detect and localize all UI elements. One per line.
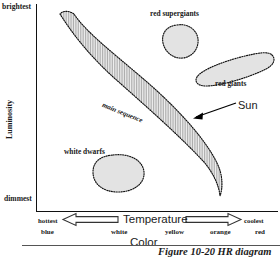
- annotation-label-sun: Sun: [238, 99, 258, 111]
- color-tick-red: red: [255, 228, 265, 236]
- region-red-supergiants: [163, 25, 198, 58]
- region-label-red-giants: red giants: [215, 79, 246, 88]
- x-axis-left-label: hottest: [38, 217, 58, 224]
- region-white-dwarfs: [93, 155, 144, 192]
- y-axis-top-label: brightest: [2, 2, 31, 11]
- x-axis-line: [36, 211, 278, 212]
- x-axis-label: Temperature: [123, 213, 188, 225]
- x-axis-right-label: coolest: [244, 217, 264, 224]
- color-tick-orange: orange: [210, 228, 231, 236]
- region-label-white-dwarfs: white dwarfs: [64, 147, 105, 156]
- temperature-axis-row: hottest Temperature coolest: [0, 213, 280, 228]
- figure-caption: Figure 10-20 HR diagram: [158, 246, 271, 257]
- color-tick-yellow: yellow: [165, 228, 184, 236]
- x-axis-secondary-label: Color: [130, 236, 157, 248]
- y-axis-label: Luminosity: [5, 89, 14, 151]
- color-tick-white: white: [111, 228, 127, 236]
- sun-arrowhead: [193, 113, 203, 120]
- color-tick-blue: blue: [41, 228, 54, 236]
- region-label-red-supergiants: red supergiants: [150, 9, 199, 18]
- hr-diagram-figure: brightest dimmest Luminosity red supergi…: [0, 0, 280, 257]
- y-axis-bottom-label: dimmest: [4, 194, 32, 203]
- y-axis-line: [36, 4, 37, 212]
